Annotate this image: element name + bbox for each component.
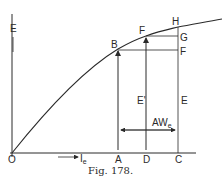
e-label: E — [181, 95, 188, 106]
aw-label: AWe — [152, 117, 172, 129]
origin-label: O — [8, 154, 16, 165]
point-F-right-label: F — [180, 46, 186, 57]
point-H-label: H — [172, 16, 179, 27]
magnetization-curve-diagram: E O Ie B F H G F A D C E' E AWe Fig. 178… — [0, 0, 223, 192]
figure-caption: Fig. 178. — [88, 165, 133, 176]
point-B-label: B — [111, 39, 118, 50]
point-F-curve-label: F — [139, 25, 145, 36]
point-C-label: C — [175, 154, 182, 165]
e-prime-label: E' — [137, 95, 146, 106]
x-axis-label: Ie — [80, 153, 87, 165]
point-A-label: A — [115, 154, 122, 165]
y-axis-label: E — [10, 23, 17, 34]
point-G-label: G — [180, 32, 188, 43]
point-D-label: D — [143, 154, 150, 165]
